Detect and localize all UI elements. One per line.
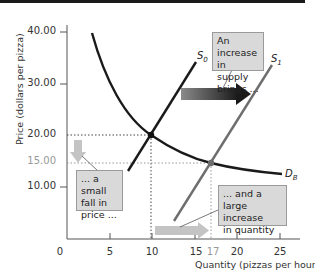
- annotation-line: ... and a: [223, 188, 282, 200]
- y-tick-10: 10.00: [16, 180, 56, 191]
- x-tick-25: 25: [270, 246, 290, 257]
- x-tick-0: 0: [50, 246, 70, 257]
- label-db: DB: [285, 168, 298, 182]
- annotation-line: fall in: [81, 197, 118, 209]
- supply-demand-chart: 40.00 30.00 20.00 15.00 10.00 0 5 10 15 …: [0, 0, 315, 280]
- annotation-line: An increase: [217, 35, 259, 59]
- chart-plot: [0, 0, 315, 280]
- x-tick-5: 5: [100, 246, 120, 257]
- y-tick-15: 15.00: [16, 155, 56, 166]
- annotation-price-fall: ... a small fall in price ...: [76, 170, 123, 211]
- x-tick-20: 20: [227, 246, 247, 257]
- label-s1: S1: [271, 53, 282, 67]
- quantity-increase-arrow: [155, 222, 209, 239]
- annotation-quantity-increase: ... and a large increase in quantity: [218, 185, 287, 226]
- annotation-supply-increase: An increase in supply brings ...: [212, 32, 264, 71]
- y-axis-title: Price (dollars per pizza): [14, 33, 25, 145]
- x-tick-17: 17: [203, 246, 223, 257]
- x-axis-title: Quantity (pizzas per hour): [195, 259, 315, 270]
- equilibrium-point-initial: [148, 132, 154, 138]
- annotation-line: ... a small: [81, 173, 118, 197]
- price-fall-arrow: [70, 140, 86, 163]
- annotation-line: brings ...: [217, 83, 259, 95]
- equilibrium-point-new: [208, 160, 214, 166]
- label-s0: S0: [197, 50, 208, 64]
- annotation-line: price ...: [81, 209, 118, 221]
- y-axis: [60, 25, 67, 239]
- annotation-line: in quantity: [223, 224, 282, 236]
- x-tick-10: 10: [142, 246, 162, 257]
- annotation-line: large increase: [223, 200, 282, 224]
- annotation-line: in supply: [217, 59, 259, 83]
